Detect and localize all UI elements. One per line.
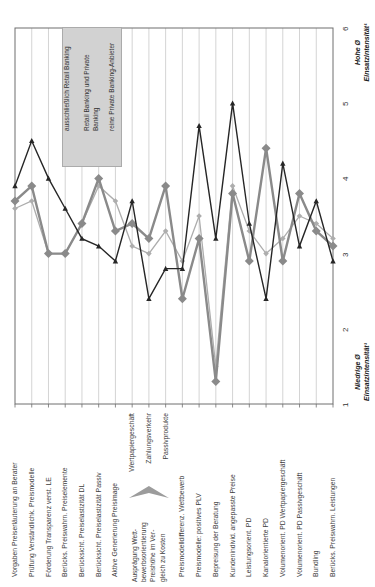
category-label: Leistungsorient. PD: [245, 413, 253, 577]
category-label: Bundling: [312, 413, 320, 577]
data-point-marker: [178, 294, 187, 303]
category-label: Preismodelldifferenz. Wettbewerb: [178, 413, 186, 577]
data-point-marker: [247, 221, 252, 226]
series-line-1: [15, 186, 333, 367]
legend-entry-label: Retail Banking und Private Banking: [82, 54, 100, 131]
category-label: Vorgaben Preiserläuterung an Berater: [11, 413, 19, 577]
category-label: Kanalorientierte PD: [262, 413, 270, 577]
data-point-marker: [230, 100, 235, 105]
value-tick-label: 4: [341, 177, 350, 181]
data-point-marker: [196, 123, 201, 128]
category-label: Berücksicht. Preiselastizität Passiv: [95, 413, 103, 577]
data-point-marker: [330, 258, 335, 263]
data-point-marker: [161, 181, 170, 190]
data-point-marker: [278, 257, 287, 266]
data-point-marker: [94, 174, 103, 183]
value-tick-label: 2: [341, 327, 350, 331]
data-point-marker: [228, 189, 237, 198]
data-point-marker: [196, 213, 202, 219]
category-label: Kundenindivid. angepasste Preise: [229, 413, 237, 577]
data-point-marker: [12, 183, 17, 188]
data-point-marker: [262, 144, 271, 153]
data-point-marker: [61, 249, 70, 258]
data-point-marker: [211, 377, 220, 386]
data-point-marker: [111, 227, 120, 236]
category-label: Berücks. Preiswahrn. Preiselemente: [61, 413, 69, 577]
data-point-marker: [314, 198, 319, 203]
value-tick-label: 1: [341, 403, 350, 407]
category-label: Berücks. Preiswahrn. Leistungen: [329, 413, 337, 577]
category-label: Förderung Transparenz verst. LE: [45, 413, 53, 577]
legend-entry-label: ausschließlich Retail Banking: [62, 46, 71, 131]
data-point-marker: [129, 198, 134, 203]
data-point-marker: [29, 198, 35, 204]
annotation-block: Ausprägung Wett- bewerbsorientierung Pre…: [130, 490, 167, 582]
data-point-marker: [245, 257, 254, 266]
value-tick-label: 6: [341, 27, 350, 31]
data-point-marker: [213, 236, 218, 241]
chart-area: Hohe Ø Einsatzintensität¹ Niedrige Ø Ein…: [0, 0, 375, 587]
data-point-marker: [46, 176, 51, 181]
data-point-marker: [295, 189, 304, 198]
category-label: Preismodelle: positives PLV: [195, 413, 203, 577]
data-point-marker: [280, 161, 285, 166]
value-axis-title-high: Hohe Ø Einsatzintensität¹: [353, 8, 371, 97]
category-label: Bepreisung der Beratung: [212, 413, 220, 577]
category-label: Prüfung Verständlichk. Preismodelle: [28, 413, 36, 577]
value-tick-label: 3: [341, 252, 350, 256]
value-tick-label: 5: [341, 102, 350, 106]
category-label: Aktive Generierung Preisimage: [111, 413, 119, 577]
data-point-marker: [44, 249, 53, 258]
category-label: Volumenorient. PD Wertpapiergeschäft: [279, 413, 287, 577]
legend-entry-label: reine Private Banking-Anbieter: [107, 43, 116, 131]
data-point-marker: [230, 183, 236, 189]
data-point-marker: [129, 243, 135, 249]
data-point-marker: [297, 243, 302, 248]
data-point-marker: [263, 296, 268, 301]
category-label: Berücksicht. Preiselastizität DL: [78, 413, 86, 577]
data-point-marker: [29, 138, 34, 143]
data-point-marker: [12, 206, 18, 212]
value-axis-title-low: Niedrige Ø Einsatzintensität¹: [353, 334, 371, 410]
series-line-2: [15, 148, 333, 381]
category-label: Volumenorient. PD Passivgeschäft: [296, 413, 304, 577]
